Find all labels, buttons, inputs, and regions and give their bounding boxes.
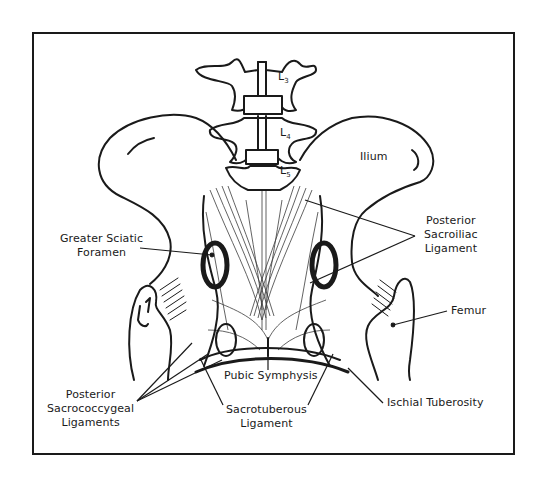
label-sacrotuberous-ligament: Sacrotuberous Ligament bbox=[226, 403, 307, 431]
label-text: Foramen bbox=[60, 246, 143, 260]
label-femur: Femur bbox=[451, 304, 486, 318]
vertebra-index: 3 bbox=[284, 77, 288, 85]
label-text: Ischial Tuberosity bbox=[387, 396, 484, 410]
label-text: Posterior bbox=[47, 388, 134, 402]
vertebra-index: 4 bbox=[286, 133, 290, 141]
label-text: Greater Sciatic bbox=[60, 232, 143, 246]
vertebra-label-l4: L4 bbox=[280, 126, 291, 141]
label-pubic-symphysis: Pubic Symphysis bbox=[224, 369, 318, 383]
label-posterior-sacroiliac-ligament: Posterior Sacroiliac Ligament bbox=[424, 214, 478, 256]
label-ilium: Ilium bbox=[360, 150, 388, 164]
label-text: Femur bbox=[451, 304, 486, 318]
right-ilium bbox=[300, 116, 433, 296]
right-femur bbox=[366, 279, 414, 380]
label-text: Ligaments bbox=[47, 416, 134, 430]
label-posterior-sacrococcygeal-ligaments: Posterior Sacrococcygeal Ligaments bbox=[47, 388, 134, 430]
label-ischial-tuberosity: Ischial Tuberosity bbox=[387, 396, 484, 410]
label-text: Sacrotuberous bbox=[226, 403, 307, 417]
label-text: Sacrococcygeal bbox=[47, 402, 134, 416]
vertebra-index: 5 bbox=[286, 171, 290, 179]
label-text: Posterior bbox=[424, 214, 478, 228]
vertebra-label-l5: L5 bbox=[280, 164, 291, 179]
label-text: Sacroiliac bbox=[424, 228, 478, 242]
vertebra-label-l3: L3 bbox=[278, 70, 289, 85]
label-text: Ligament bbox=[226, 417, 307, 431]
label-greater-sciatic-foramen: Greater Sciatic Foramen bbox=[60, 232, 143, 260]
left-greater-sciatic-foramen bbox=[203, 243, 227, 287]
label-text: Ilium bbox=[360, 150, 388, 164]
label-text: Pubic Symphysis bbox=[224, 369, 318, 383]
label-text: Ligament bbox=[424, 242, 478, 256]
